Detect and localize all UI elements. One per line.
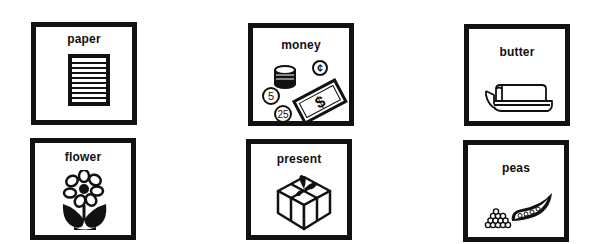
card-money[interactable]: money ¢ 5 25 $: [248, 23, 354, 126]
card-flower[interactable]: flower: [30, 138, 136, 240]
card-butter[interactable]: butter: [464, 24, 570, 126]
coin-5-label: 5: [268, 90, 274, 102]
card-peas[interactable]: peas: [463, 140, 569, 242]
coin-25-label: 25: [277, 109, 289, 120]
gift-box-icon: [276, 173, 332, 233]
paper-icon: [68, 54, 110, 106]
card-label: present: [251, 152, 347, 166]
flower-icon: [60, 170, 110, 232]
pea-pod-icon: [482, 191, 556, 231]
card-paper[interactable]: paper: [31, 22, 137, 125]
card-label: peas: [468, 161, 564, 175]
butter-dish-icon: [484, 81, 556, 115]
card-label: flower: [35, 150, 131, 164]
card-present[interactable]: present: [246, 139, 352, 240]
money-icon: ¢ 5 25 $: [259, 58, 351, 124]
card-label: paper: [36, 32, 132, 46]
coin-cent-label: ¢: [317, 63, 323, 74]
card-label: butter: [469, 45, 565, 59]
card-label: money: [253, 38, 349, 52]
